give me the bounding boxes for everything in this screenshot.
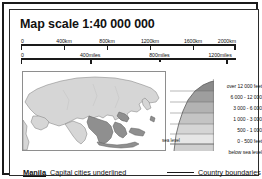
elevation-band-label-below-sea-level: below sea level [229,149,262,155]
miles-tick-800 [159,58,160,62]
boundary-line-icon [167,172,194,173]
capital-cities-description: Capital cities underlined [50,168,126,177]
miles-scale-axis [21,58,236,65]
legend-item-capital-cities: Manila Capital cities underlined [23,168,126,177]
page-title: Map scale 1:40 000 000 [20,17,155,31]
bottom-legend-row: Manila Capital cities underlined Country… [21,167,261,179]
map-key-panel: Map scale 1:40 000 000 0 400km 800km 120… [0,0,262,179]
elevation-band-label-500-1000: 500 - 1 000 [237,127,262,133]
miles-tick-1200 [226,58,227,64]
outer-border: Map scale 1:40 000 000 0 400km 800km 120… [2,2,258,175]
km-scale-line [21,44,236,46]
miles-scale-labels: 0 400miles 800miles 1200miles [21,49,236,58]
asia-locator-map-graphic [23,72,165,150]
legend-item-country-boundaries: Country boundaries [167,168,261,177]
miles-tick-0 [21,58,22,64]
km-scale-labels: 0 400km 800km 1200km 1600km 2000km [21,35,236,44]
country-boundaries-description: Country boundaries [198,168,261,177]
asia-locator-map [22,71,166,151]
sea-level-label: sea level [162,138,180,143]
capital-city-sample-label: Manila [23,168,46,177]
elevation-band-label-6000-12000: 6 000 - 12 000 [230,94,262,100]
elevation-band-label-3000-6000: 3 000 - 6 000 [233,105,262,111]
miles-scale-bar: 0 400miles 800miles 1200miles [21,49,236,65]
elevation-band-label-over-12000: over 12 000 feet [227,83,262,89]
miles-tick-400 [90,58,91,64]
miles-scale-line [21,58,236,60]
elevation-band-label-1000-3000: 1 000 - 3 000 [233,116,262,122]
elevation-band-label-0-500: 0 - 500 feet [237,138,262,144]
elevation-key-labels: over 12 000 feet 6 000 - 12 000 3 000 - … [206,71,262,155]
inner-border: Map scale 1:40 000 000 0 400km 800km 120… [9,9,259,176]
